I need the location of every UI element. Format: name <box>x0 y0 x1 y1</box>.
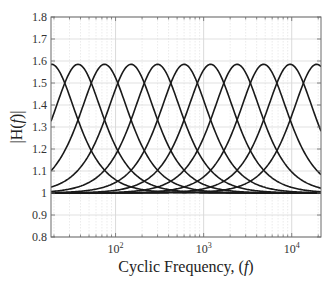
x-tick-label: 102 <box>108 241 124 256</box>
y-tick-label: 1.8 <box>32 10 47 24</box>
y-tick-label: 1.4 <box>32 98 47 112</box>
x-tick-label: 104 <box>284 241 300 256</box>
response-curves <box>51 64 321 193</box>
x-axis-title-suffix: ) <box>248 258 253 276</box>
y-axis-title-prefix: |H( <box>8 123 26 143</box>
x-axis-title-prefix: Cyclic Frequency, ( <box>118 258 244 276</box>
y-axis-title-suffix: )| <box>8 110 26 119</box>
y-tick-label: 1.2 <box>32 142 47 156</box>
frequency-response-chart: 0.80.911.11.21.31.41.51.61.71.8 10210310… <box>0 0 330 283</box>
y-axis-tick-labels: 0.80.911.11.21.31.41.51.61.71.8 <box>32 10 47 244</box>
x-tick-label: 103 <box>196 241 212 256</box>
x-axis-tick-labels: 102103104 <box>108 241 300 256</box>
y-tick-label: 1.1 <box>32 164 47 178</box>
x-axis-title: Cyclic Frequency, (f) <box>118 258 253 276</box>
y-tick-label: 1.5 <box>32 76 47 90</box>
y-tick-label: 1.3 <box>32 120 47 134</box>
y-axis-title: |H(f)| <box>8 110 26 143</box>
response-curve-band-3 <box>51 64 321 193</box>
y-tick-label: 1 <box>41 186 47 200</box>
y-tick-label: 1.7 <box>32 32 47 46</box>
y-tick-label: 0.8 <box>32 230 47 244</box>
y-tick-label: 1.6 <box>32 54 47 68</box>
y-tick-label: 0.9 <box>32 208 47 222</box>
